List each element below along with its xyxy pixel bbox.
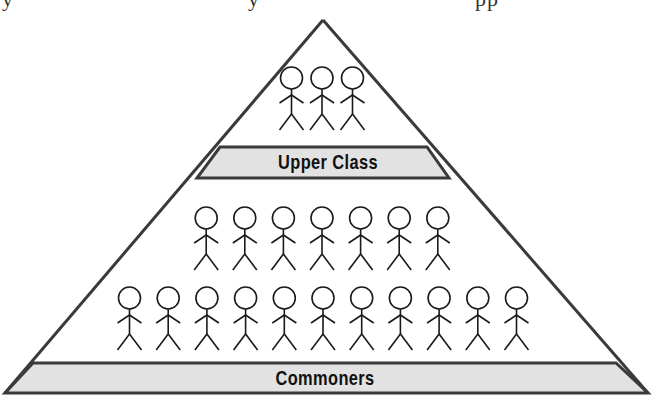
stick-figure-icon <box>280 67 304 130</box>
stick-figure-icon <box>233 207 257 270</box>
stick-figure-icon <box>118 287 142 350</box>
stick-figure-icon <box>349 207 373 270</box>
stick-figure-icon <box>505 287 529 350</box>
stick-figure-icon <box>310 67 334 130</box>
stick-figure-icon <box>427 287 451 350</box>
stick-figure-icon <box>156 287 180 350</box>
stick-figure-icon <box>466 287 490 350</box>
stick-figure-icon <box>194 207 218 270</box>
cutoff-text-fragment: pp <box>475 0 499 12</box>
stick-figure-icon <box>387 207 411 270</box>
stick-figure-icon <box>234 287 258 350</box>
cutoff-text-fragment: y <box>248 0 259 12</box>
stick-figure-icon <box>426 207 450 270</box>
stick-figure-icon <box>310 207 334 270</box>
pyramid-diagram: y y pp Upper Class Commoners <box>0 0 664 410</box>
upper-class-label: Upper Class <box>246 148 410 176</box>
stick-figure-icon <box>350 287 374 350</box>
stick-figure-icon <box>272 287 296 350</box>
cutoff-text-fragment: y <box>2 0 13 12</box>
pyramid-left-edge <box>5 20 323 393</box>
stick-figure-icon <box>195 287 219 350</box>
stick-figure-icon <box>311 287 335 350</box>
stick-figure-icon <box>271 207 295 270</box>
stick-figures <box>118 67 529 350</box>
pyramid-graphic <box>0 0 664 410</box>
commoners-label: Commoners <box>243 364 407 392</box>
stick-figure-icon <box>388 287 412 350</box>
stick-figure-icon <box>341 67 365 130</box>
pyramid-right-edge <box>323 20 648 393</box>
